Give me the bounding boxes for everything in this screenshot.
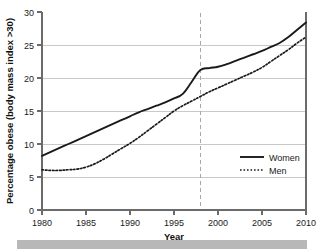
obesity-trend-line-chart: 30 25 20 15 10 5 0 1980 1985 1990 1995 2…	[0, 0, 324, 249]
series-line-men	[42, 37, 306, 170]
y-tick-label-15: 15	[24, 107, 34, 117]
x-tick-label-1995: 1995	[164, 218, 184, 228]
y-tick-label-0: 0	[29, 206, 34, 216]
y-tick-label-5: 5	[29, 173, 34, 183]
x-tick-label-2000: 2000	[208, 218, 228, 228]
y-tick-label-25: 25	[24, 41, 34, 51]
y-axis-title: Percentage obese (body mass index >30)	[4, 18, 15, 204]
footer-bar	[17, 240, 307, 249]
x-tick-label-1985: 1985	[76, 218, 96, 228]
legend-label-women: Women	[269, 153, 300, 163]
y-axis-tick-labels: 30 25 20 15 10 5 0	[24, 8, 34, 216]
chart-figure: 30 25 20 15 10 5 0 1980 1985 1990 1995 2…	[0, 0, 324, 249]
chart-legend: Women Men	[240, 153, 300, 176]
x-axis-tick-labels: 1980 1985 1990 1995 2000 2005 2010	[32, 218, 316, 228]
series-line-women	[42, 23, 306, 156]
legend-label-men: Men	[269, 166, 287, 176]
x-axis-ticks	[42, 210, 306, 215]
y-tick-label-20: 20	[24, 74, 34, 84]
x-tick-label-1980: 1980	[32, 218, 52, 228]
y-axis-ticks	[37, 12, 42, 210]
y-tick-label-10: 10	[24, 140, 34, 150]
x-tick-label-2010: 2010	[296, 218, 316, 228]
x-tick-label-2005: 2005	[252, 218, 272, 228]
x-tick-label-1990: 1990	[120, 218, 140, 228]
y-tick-label-30: 30	[24, 8, 34, 18]
